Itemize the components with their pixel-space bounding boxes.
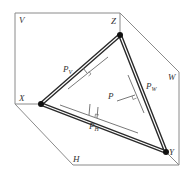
trace-label-ph: PH	[88, 121, 100, 132]
plane-label-h: H	[72, 154, 80, 164]
plane-p-label: P	[107, 91, 114, 101]
trace-triangle	[41, 35, 166, 152]
vertex-z-dot	[117, 32, 123, 38]
ph-parallel-line-with-perpendiculars	[60, 104, 138, 133]
axis-label-y: Y	[169, 147, 175, 157]
plane-label-w: W	[168, 72, 177, 82]
axis-label-x: X	[18, 93, 25, 103]
vertex-x-dot	[38, 101, 44, 107]
trace-label-pv: PV	[62, 64, 74, 75]
trace-label-pw: PW	[145, 81, 158, 92]
plane-label-v: V	[19, 15, 26, 25]
axis-label-z: Z	[111, 16, 117, 26]
plane-trace-diagram: V W H Z X Y PV PW PH P	[0, 0, 192, 181]
